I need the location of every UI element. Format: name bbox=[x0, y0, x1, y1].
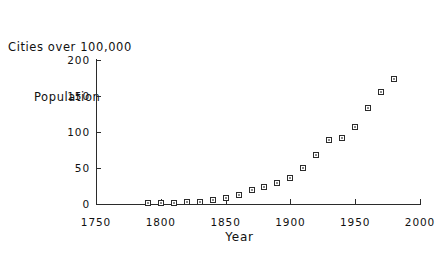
y-tick-label: 150 bbox=[52, 90, 90, 102]
data-point bbox=[197, 199, 203, 205]
data-point bbox=[300, 165, 306, 171]
x-tick-label: 1800 bbox=[146, 216, 176, 228]
data-point bbox=[378, 89, 384, 95]
data-point bbox=[236, 192, 242, 198]
x-tick-mark bbox=[290, 199, 291, 204]
data-point bbox=[391, 76, 397, 82]
x-tick-label: 1900 bbox=[275, 216, 305, 228]
plot-area: 050100150200 175018001850190019502000 bbox=[0, 0, 439, 257]
data-point bbox=[184, 199, 190, 205]
x-tick-mark bbox=[96, 199, 97, 204]
data-point bbox=[287, 175, 293, 181]
y-tick-label: 200 bbox=[52, 54, 90, 66]
data-point bbox=[274, 180, 280, 186]
data-point bbox=[145, 200, 151, 206]
y-tick-label: 100 bbox=[52, 126, 90, 138]
x-tick-label: 2000 bbox=[405, 216, 435, 228]
y-tick-mark bbox=[96, 60, 101, 61]
data-point bbox=[158, 200, 164, 206]
data-point bbox=[249, 187, 255, 193]
data-point bbox=[171, 200, 177, 206]
y-tick-mark bbox=[96, 132, 101, 133]
x-tick-label: 1750 bbox=[81, 216, 111, 228]
data-point bbox=[352, 124, 358, 130]
x-axis-label-wrap: Year bbox=[0, 230, 439, 244]
x-tick-mark bbox=[355, 199, 356, 204]
x-axis-label: Year bbox=[225, 230, 254, 244]
y-tick-mark bbox=[96, 168, 101, 169]
data-point bbox=[313, 152, 319, 158]
data-point bbox=[210, 197, 216, 203]
data-point bbox=[339, 135, 345, 141]
y-tick-mark bbox=[96, 96, 101, 97]
data-point bbox=[261, 184, 267, 190]
x-tick-mark bbox=[420, 199, 421, 204]
y-tick-label: 50 bbox=[52, 162, 90, 174]
y-tick-label: 0 bbox=[52, 198, 90, 210]
x-tick-label: 1850 bbox=[210, 216, 240, 228]
data-point bbox=[326, 137, 332, 143]
data-point bbox=[365, 105, 371, 111]
chart-figure: Cities over 100,000 Population 050100150… bbox=[0, 0, 439, 257]
data-point bbox=[223, 195, 229, 201]
y-tick-mark bbox=[96, 204, 101, 205]
x-tick-label: 1950 bbox=[340, 216, 370, 228]
